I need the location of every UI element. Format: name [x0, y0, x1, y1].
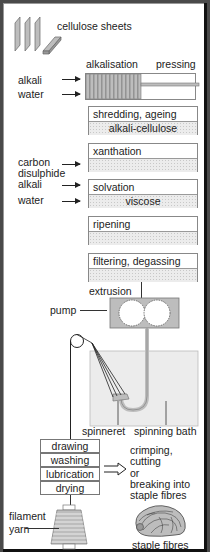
lubrication-step: lubrication: [40, 467, 100, 481]
extrusion-line: [141, 282, 142, 298]
xanthation-box: xanthation: [88, 143, 198, 172]
alkalisation-label: alkalisation: [86, 59, 138, 70]
drying-step: drying: [40, 481, 100, 495]
alkali-input-2-label: alkali: [18, 179, 42, 190]
alkali-2-arrow: [62, 185, 80, 186]
viscose-label: viscose: [89, 195, 197, 208]
solvation-label: solvation: [89, 180, 197, 195]
extrusion-label: extrusion: [89, 286, 132, 297]
yarn-label: yarn: [9, 524, 29, 535]
pressing-label: pressing: [156, 59, 196, 70]
xanthation-fill: [89, 159, 197, 172]
spinneret-label: spinneret: [82, 426, 125, 437]
drawing-step: drawing: [40, 439, 100, 453]
water-arrow: [62, 94, 80, 95]
ripening-label: ripening: [89, 217, 197, 232]
alkalisation-press-icon: [85, 73, 201, 100]
alkali-cellulose-label: alkali-cellulose: [89, 122, 197, 135]
water-input-label: water: [18, 89, 44, 100]
water-input-2-label: water: [18, 195, 44, 206]
double-arrow-icon: [104, 462, 128, 476]
filtering-box: filtering, degassing: [88, 253, 198, 282]
filtering-label: filtering, degassing: [89, 254, 197, 269]
spinning-bath-label: spinning bath: [134, 426, 196, 437]
yarn-leader: [25, 528, 59, 529]
diagram-frame: cellulose sheets alkalisation pressing a…: [3, 3, 207, 552]
carbon-disulphide-arrow: [62, 164, 80, 165]
crimping-text-2: cutting: [130, 456, 161, 467]
alkali-arrow: [62, 79, 80, 80]
filament-label: filament: [9, 511, 46, 522]
shredding-label: shredding, ageing: [89, 107, 197, 122]
crimping-text-5: staple fibres: [130, 490, 187, 501]
ripening-box: ripening: [88, 216, 198, 245]
shredding-box: shredding, ageing alkali-cellulose: [88, 106, 198, 135]
water-2-arrow: [62, 201, 80, 202]
solvation-box: solvation viscose: [88, 179, 198, 208]
xanthation-label: xanthation: [89, 144, 197, 159]
ripening-fill: [89, 232, 197, 245]
washing-step: washing: [40, 453, 100, 467]
alkali-input-label: alkali: [18, 75, 42, 86]
filtering-fill: [89, 269, 197, 282]
staple-fibres-icon: [131, 503, 189, 539]
staple-fibres-label: staple fibres: [132, 540, 189, 551]
cellulose-sheets-label: cellulose sheets: [57, 21, 132, 32]
